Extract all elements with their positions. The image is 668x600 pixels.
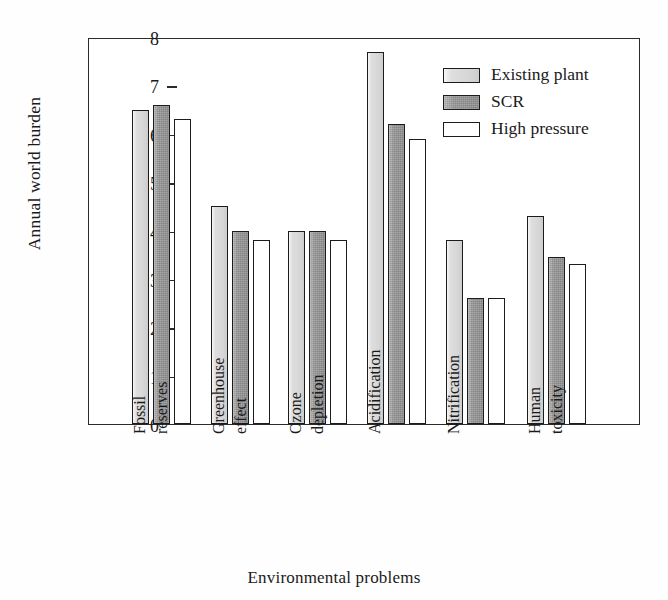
x-axis-label: depletion xyxy=(309,434,369,452)
x-axis-label-line: Fossil xyxy=(131,396,147,434)
x-axis-label: Acidification xyxy=(366,434,450,452)
y-axis-title: Annual world burden xyxy=(24,24,45,324)
x-axis-label-line: toxicity xyxy=(548,385,564,434)
legend-label: SCR xyxy=(491,93,524,111)
y-tick-label: 7 xyxy=(133,74,159,100)
legend-swatch xyxy=(443,68,480,83)
bar-chart-figure: Annual world burden 012345678 Fossilrese… xyxy=(0,0,668,600)
x-axis-title: Environmental problems xyxy=(0,568,668,588)
x-axis-label-line: effect xyxy=(232,398,248,434)
bar xyxy=(153,105,170,424)
bar xyxy=(232,231,249,425)
bar xyxy=(253,240,270,424)
bar xyxy=(467,298,484,424)
y-tick-mark xyxy=(167,86,177,88)
x-axis-label-line: Ozone xyxy=(287,392,303,434)
x-axis-label-line: depletion xyxy=(309,374,325,434)
legend-item: SCR xyxy=(443,89,589,115)
x-axis-label-line: Nitrification xyxy=(445,355,461,434)
y-tick-label: 8 xyxy=(133,26,159,52)
bar xyxy=(132,110,149,424)
legend-item: High pressure xyxy=(443,116,589,142)
bar xyxy=(569,264,586,424)
x-axis-label: toxicity xyxy=(548,434,597,452)
x-axis-label-line: Acidification xyxy=(366,350,382,434)
x-axis-label: Nitrification xyxy=(445,434,524,452)
x-axis-label-line: reserves xyxy=(153,382,169,434)
legend-label: High pressure xyxy=(491,120,589,138)
legend-swatch xyxy=(443,95,480,110)
x-axis-label: reserves xyxy=(153,434,205,452)
x-axis-label-line: Greenhouse xyxy=(210,358,226,434)
chart-legend: Existing plantSCRHigh pressure xyxy=(443,62,589,143)
x-axis-label: effect xyxy=(232,434,268,452)
bar xyxy=(174,119,191,424)
bar xyxy=(409,139,426,424)
bar xyxy=(488,298,505,424)
bar xyxy=(388,124,405,424)
bar xyxy=(330,240,347,424)
x-axis-label-line: Human xyxy=(526,387,542,434)
legend-item: Existing plant xyxy=(443,62,589,88)
legend-label: Existing plant xyxy=(491,66,589,84)
legend-swatch xyxy=(443,122,480,137)
